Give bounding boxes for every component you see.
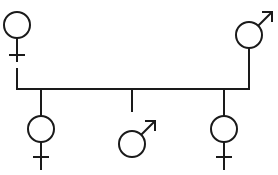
pedigree-diagram: Family pedigree diagram xyxy=(0,0,278,175)
mars-arrow-shaft xyxy=(141,122,154,135)
female-circle xyxy=(28,116,54,142)
symbol-child-3-female xyxy=(211,116,237,170)
male-circle xyxy=(236,22,262,48)
female-circle xyxy=(4,12,30,38)
connector-group xyxy=(16,48,250,116)
pedigree-canvas: Family pedigree diagram xyxy=(0,0,278,175)
male-circle xyxy=(119,131,145,157)
mars-arrow-shaft xyxy=(258,13,271,26)
symbol-parent-male xyxy=(236,12,272,48)
symbol-child-2-male xyxy=(119,121,155,157)
symbol-child-1-female xyxy=(28,116,54,170)
symbol-parent-female xyxy=(4,12,30,62)
female-circle xyxy=(211,116,237,142)
